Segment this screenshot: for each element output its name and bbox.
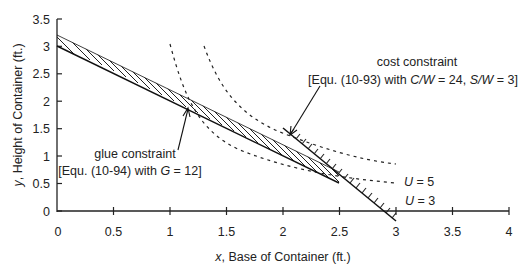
x-tick-label: 0.5 <box>105 225 122 239</box>
u5-label: U = 5 <box>404 175 434 189</box>
y-tick-label: 2 <box>43 95 50 109</box>
x-tick-label: 0 <box>55 225 62 239</box>
x-tick-label: 3 <box>393 225 400 239</box>
cost-constraint-hatching <box>290 129 396 218</box>
x-axis-title: x, Base of Container (ft.) <box>214 250 350 264</box>
y-tick-label: 0 <box>43 205 50 219</box>
y-tick-label: 3.5 <box>33 13 50 27</box>
y-tick-label: 0.5 <box>33 177 50 191</box>
cost-constraint-annotation: cost constraint [Equ. (10-93) with C/W =… <box>308 55 518 87</box>
y-tick-label: 1.5 <box>33 122 50 136</box>
x-axis: 0 0.5 1 1.5 2 2.5 3 3.5 4 <box>55 207 513 239</box>
svg-text:glue constraint: glue constraint <box>94 147 176 161</box>
y-tick-label: 3 <box>43 40 50 54</box>
cost-arrow <box>290 86 320 135</box>
u3-label: U = 3 <box>405 194 435 208</box>
x-tick-label: 1.5 <box>218 225 235 239</box>
x-tick-label: 1 <box>167 225 174 239</box>
x-tick-label: 4 <box>506 225 513 239</box>
x-tick-label: 2.5 <box>331 225 348 239</box>
constraint-chart: 0 0.5 1 1.5 2 2.5 3 3.5 0 0.5 1 1.5 2 <box>0 0 528 268</box>
y-tick-label: 1 <box>43 150 50 164</box>
svg-text:cost constraint: cost constraint <box>377 55 458 69</box>
u5-curve <box>204 46 396 164</box>
glue-arrow <box>178 108 190 150</box>
x-tick-label: 3.5 <box>444 225 461 239</box>
svg-text:[Equ. (10-94) with G = 12]: [Equ. (10-94) with G = 12] <box>58 164 202 178</box>
glue-constraint-annotation: glue constraint [Equ. (10-94) with G = 1… <box>58 147 202 178</box>
y-axis: 0 0.5 1 1.5 2 2.5 3 3.5 <box>33 13 62 219</box>
y-axis-title: y, Height of Container (ft.) <box>11 43 25 187</box>
svg-text:[Equ. (10-93) with C/W = 24, S: [Equ. (10-93) with C/W = 24, S/W = 3] <box>308 73 518 87</box>
y-tick-label: 2.5 <box>33 67 50 81</box>
x-tick-label: 2 <box>280 225 287 239</box>
glue-constraint-line <box>57 46 339 183</box>
